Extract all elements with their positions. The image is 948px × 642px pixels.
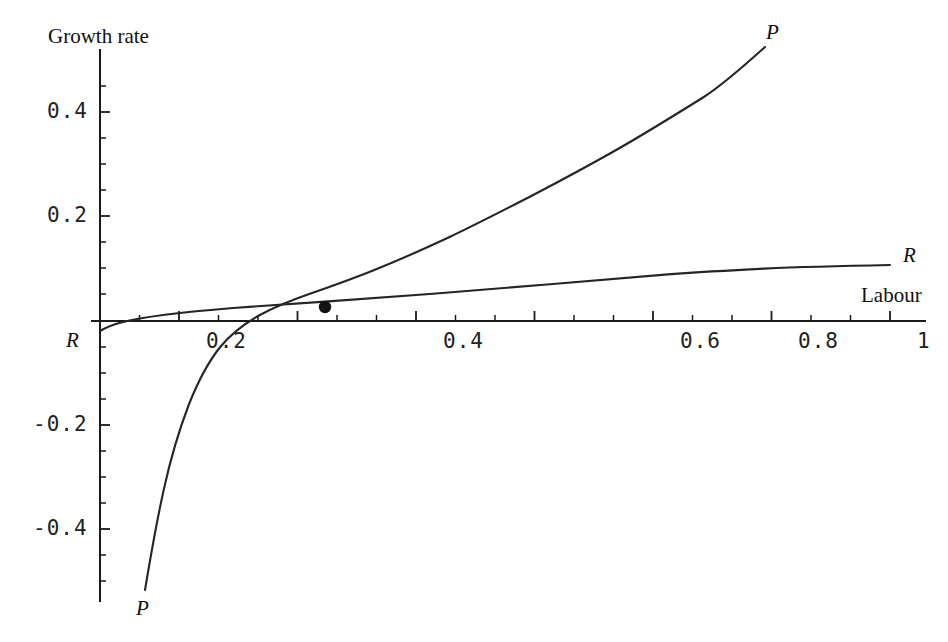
chart-svg (0, 0, 948, 642)
curve-label-p-bottom: P (136, 598, 149, 619)
x-axis-title: Labour (861, 285, 922, 306)
curve-label-r-left: R (66, 330, 79, 351)
x-tick-label-0.4: 0.4 (443, 331, 484, 352)
x-tick-label-0.2: 0.2 (206, 331, 247, 352)
curve-label-p-top: P (766, 22, 779, 43)
chart-canvas: Growth rate Labour 0.4 0.2 -0.2 -0.4 0.2… (0, 0, 948, 642)
y-axis-title: Growth rate (48, 26, 149, 47)
y-tick-label-neg-0.4: -0.4 (33, 518, 88, 539)
curve-label-r-right: R (903, 245, 916, 266)
equilibrium-point-marker (319, 301, 331, 313)
x-axis-major-ticks (179, 311, 890, 321)
x-tick-label-0.8: 0.8 (798, 331, 839, 352)
x-tick-label-0.6: 0.6 (680, 331, 721, 352)
y-tick-label-0.4: 0.4 (47, 101, 88, 122)
y-tick-label-0.2: 0.2 (47, 205, 88, 226)
x-tick-label-1: 1 (917, 331, 931, 352)
y-tick-label-neg-0.2: -0.2 (33, 414, 88, 435)
